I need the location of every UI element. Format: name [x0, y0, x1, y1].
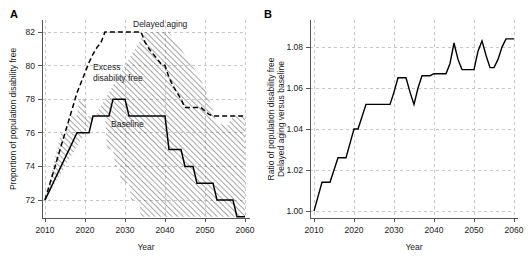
panel-b-plot: 1.00 1.02 1.04 1.06 1.08 2010 2020 2030 …	[264, 0, 528, 263]
series-ratio-delayed-vs-baseline	[314, 39, 514, 211]
panel-b-yaxis-ticks: 1.00 1.02 1.04 1.06 1.08	[286, 42, 310, 216]
panel-b-xtick-2010: 2010	[305, 225, 324, 235]
panel-b-yaxis-title-line1: Ratio of population disability free	[266, 57, 276, 180]
panel-b-xaxis-title: Year	[405, 242, 422, 252]
panel-a-ytick-76: 76	[26, 128, 36, 138]
panel-b-letter: B	[264, 8, 272, 20]
panel-b-xtick-2060: 2060	[505, 225, 524, 235]
panel-a: A	[0, 0, 264, 263]
panel-b-ytick-1-06: 1.06	[286, 83, 303, 93]
panel-a-ytick-82: 82	[26, 27, 36, 37]
panel-b-xtick-2050: 2050	[465, 225, 484, 235]
panel-a-yaxis-title: Proportion of population disability free	[8, 48, 18, 190]
panel-a-xaxis-title: Year	[137, 242, 154, 252]
panel-a-xtick-2040: 2040	[156, 225, 175, 235]
panel-a-xtick-2010: 2010	[36, 225, 55, 235]
panel-b-axes	[310, 20, 518, 218]
panel-a-xaxis-ticks: 2010 2020 2030 2040 2050 2060	[36, 218, 255, 235]
panel-b-ytick-1-02: 1.02	[286, 165, 303, 175]
panel-a-xtick-2050: 2050	[196, 225, 215, 235]
panel-a-ytick-78: 78	[26, 94, 36, 104]
panel-a-ytick-72: 72	[26, 195, 36, 205]
panel-a-ytick-74: 74	[26, 161, 36, 171]
panel-b-xaxis-ticks: 2010 2020 2030 2040 2050 2060	[305, 218, 524, 235]
annotation-baseline: Baseline	[111, 119, 144, 129]
panel-b-xtick-2030: 2030	[385, 225, 404, 235]
panel-a-xtick-2030: 2030	[116, 225, 135, 235]
panel-b-yaxis-title-line2: Delayed aging versus baseline	[276, 61, 286, 177]
figure-container: A	[0, 0, 528, 263]
panel-b-ytick-1-08: 1.08	[286, 42, 303, 52]
panel-a-yaxis-ticks: 72 74 76 78 80 82	[26, 27, 42, 205]
panel-a-xtick-2060: 2060	[236, 225, 255, 235]
panel-b-xtick-2020: 2020	[345, 225, 364, 235]
panel-a-letter: A	[10, 8, 18, 20]
panel-b-ytick-1-04: 1.04	[286, 124, 303, 134]
panel-a-ytick-80: 80	[26, 61, 36, 71]
annotation-excess-line1: Excess	[93, 62, 120, 72]
panel-b-xtick-2040: 2040	[425, 225, 444, 235]
panel-a-xtick-2020: 2020	[76, 225, 95, 235]
panel-b-gridlines-y	[310, 47, 514, 211]
panel-b: B	[264, 0, 528, 263]
annotation-excess-line2: disability free	[93, 73, 143, 83]
panel-a-plot: 72 74 76 78 80 82 2010 2020 2030 2040 20…	[0, 0, 264, 263]
panel-b-ytick-1-00: 1.00	[286, 206, 303, 216]
annotation-delayed-aging: Delayed aging	[133, 19, 188, 29]
